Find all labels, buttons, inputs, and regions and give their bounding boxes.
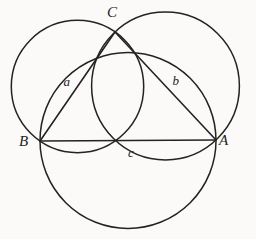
figure-canvas [0,0,256,239]
vertex-label-b: B [19,134,28,149]
triangle-side-c [40,140,216,141]
circles-group [11,12,239,228]
geometry-figure: C B A a b c [0,0,256,239]
triangle-side-b [115,32,216,140]
side-label-a: a [64,75,71,88]
side-label-c: c [128,146,134,159]
side-label-b: b [173,74,180,87]
vertex-label-a: A [219,133,228,148]
vertex-label-c: C [107,5,117,20]
triangle-side-a [40,32,115,141]
